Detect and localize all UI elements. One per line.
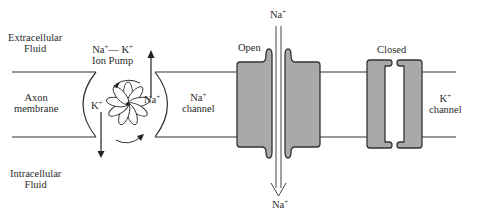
pump-na-label: Na+ (144, 94, 160, 105)
na-bottom-label: Na+ (272, 199, 288, 210)
extracellular-fluid-label: Extracellular Fluid (8, 32, 62, 54)
k-channel-closed (367, 60, 422, 148)
membrane-lines (12, 72, 456, 137)
k-channel-label: K+ channel (429, 93, 462, 115)
axon-membrane-label: Axon membrane (14, 92, 58, 114)
na-influx-arrow-icon (271, 26, 286, 196)
na-channel-state-label: Open (238, 42, 261, 53)
na-top-label: Na+ (270, 9, 286, 20)
intracellular-fluid-label: Intracellular Fluid (10, 168, 61, 190)
na-channel-open (237, 49, 320, 158)
k-channel-state-label: Closed (377, 44, 406, 55)
pump-k-label: K+ (91, 100, 103, 111)
membrane-diagram (0, 0, 479, 220)
na-channel-label: Na+ channel (182, 92, 215, 114)
ion-pump-label: Na+— K+ Ion Pump (92, 44, 133, 66)
